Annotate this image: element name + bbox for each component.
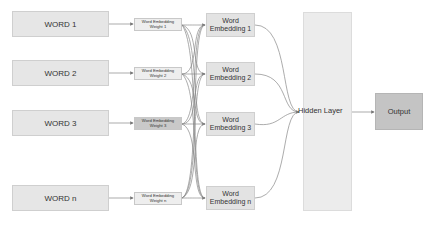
embedding-label-line2: Embedding 1 (210, 25, 251, 33)
word-input-2: WORD 2 (12, 60, 109, 86)
weight-label-line2: Weight 1 (142, 25, 174, 30)
word-label: WORD 1 (45, 20, 77, 29)
word-input-1: WORD 1 (12, 11, 109, 37)
weight-label-line2: Weight 3 (142, 124, 174, 129)
word-embedding-1: WordEmbedding 1 (206, 13, 255, 37)
embedding-label-line2: Embedding 3 (210, 124, 251, 132)
embedding-label-line2: Embedding n (210, 198, 251, 206)
output-node: Output (375, 93, 423, 130)
embedding-weight-3: Word EmbeddingWeight 3 (134, 117, 182, 130)
word-label: WORD n (45, 194, 77, 203)
word-input-n: WORD n (12, 185, 109, 211)
word-embedding-2: WordEmbedding 2 (206, 62, 255, 86)
embedding-label-line1: Word (210, 17, 251, 25)
hidden-layer-label: Hidden Layer (298, 106, 343, 115)
embedding-label-line1: Word (210, 116, 251, 124)
embedding-weight-1: Word EmbeddingWeight 1 (134, 18, 182, 31)
word-embedding-3: WordEmbedding 3 (206, 112, 255, 136)
word-label: WORD 3 (45, 119, 77, 128)
weight-label-line2: Weight 2 (142, 74, 174, 79)
embedding-label-line1: Word (210, 190, 251, 198)
embedding-weight-n: Word EmbeddingWeight n (134, 192, 182, 205)
word-label: WORD 2 (45, 69, 77, 78)
embedding-label-line2: Embedding 2 (210, 74, 251, 82)
word-input-3: WORD 3 (12, 110, 109, 136)
embedding-label-line1: Word (210, 66, 251, 74)
word-embedding-n: WordEmbedding n (206, 186, 255, 210)
output-label: Output (388, 107, 411, 116)
embedding-weight-2: Word EmbeddingWeight 2 (134, 67, 182, 80)
weight-label-line2: Weight n (142, 199, 174, 204)
